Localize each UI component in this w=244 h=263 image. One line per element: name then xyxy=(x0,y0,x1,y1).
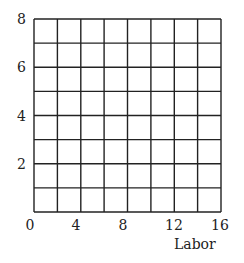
x-axis-label: Labor xyxy=(174,236,216,252)
y-tick-8: 8 xyxy=(14,12,26,26)
x-tick-12: 12 xyxy=(165,218,183,232)
x-tick-16: 16 xyxy=(211,218,229,232)
y-tick-2: 2 xyxy=(14,157,26,171)
grid-lines xyxy=(34,19,221,212)
x-tick-0: 0 xyxy=(26,218,35,232)
y-tick-4: 4 xyxy=(14,109,26,123)
y-tick-6: 6 xyxy=(14,60,26,74)
plot-grid xyxy=(34,19,221,212)
x-tick-8: 8 xyxy=(119,218,128,232)
x-tick-4: 4 xyxy=(72,218,81,232)
